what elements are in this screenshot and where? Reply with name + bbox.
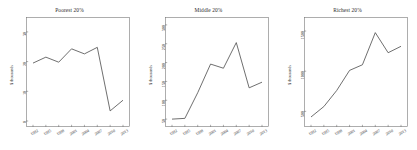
plot-area [26, 17, 130, 127]
plot-area [304, 17, 408, 127]
chart-panel-poorest: Poorest 20% $ thousands 0102030 19921995… [0, 0, 139, 150]
x-tick-label-group: 19921995199820012004200720102013 [165, 130, 269, 148]
panel-title: Richest 20% [278, 7, 417, 13]
x-tick-label: 2007 [372, 128, 382, 136]
plot-area [165, 17, 269, 127]
line-plot-svg [165, 17, 269, 127]
x-tick-label: 1992 [307, 128, 317, 136]
x-tick-label: 2004 [359, 128, 369, 136]
x-tick-label: 2013 [397, 128, 407, 136]
x-tick-label: 2013 [258, 128, 268, 136]
x-tick-label: 2007 [233, 128, 243, 136]
y-tick-label-group: 50100150200250300 [147, 17, 164, 127]
x-tick-label: 2010 [107, 128, 117, 136]
x-tick-label: 2007 [94, 128, 104, 136]
x-tick-label: 2004 [81, 128, 91, 136]
x-tick-label: 2013 [119, 128, 129, 136]
chart-panel-richest: Richest 20% $ thousands 50010001500 1992… [278, 0, 417, 150]
line-plot-svg [304, 17, 408, 127]
x-tick-label: 2010 [385, 128, 395, 136]
x-tick-label: 2010 [246, 128, 256, 136]
x-tick-label-group: 19921995199820012004200720102013 [304, 130, 408, 148]
x-tick-label: 1998 [333, 128, 343, 136]
plot-frame [166, 18, 269, 127]
y-tick-label-group: 0102030 [8, 17, 25, 127]
x-tick-label: 1995 [42, 128, 52, 136]
x-tick-label: 1992 [29, 128, 39, 136]
x-tick-label: 1998 [194, 128, 204, 136]
line-plot-svg [26, 17, 130, 127]
x-tick-label-group: 19921995199820012004200720102013 [26, 130, 130, 148]
x-tick-label: 1995 [181, 128, 191, 136]
x-tick-label: 1998 [55, 128, 65, 136]
x-tick-label: 2001 [207, 128, 217, 136]
x-tick-label: 2001 [346, 128, 356, 136]
chart-panel-middle: Middle 20% $ thousands 50100150200250300… [139, 0, 278, 150]
x-tick-label: 1995 [320, 128, 330, 136]
panel-title: Middle 20% [139, 7, 278, 13]
x-tick-label: 2001 [68, 128, 78, 136]
small-multiples-figure: Poorest 20% $ thousands 0102030 19921995… [0, 0, 417, 150]
x-tick-label: 1992 [168, 128, 178, 136]
plot-frame [27, 18, 130, 127]
y-tick-label-group: 50010001500 [286, 17, 303, 127]
x-tick-label: 2004 [220, 128, 230, 136]
panel-title: Poorest 20% [0, 7, 139, 13]
